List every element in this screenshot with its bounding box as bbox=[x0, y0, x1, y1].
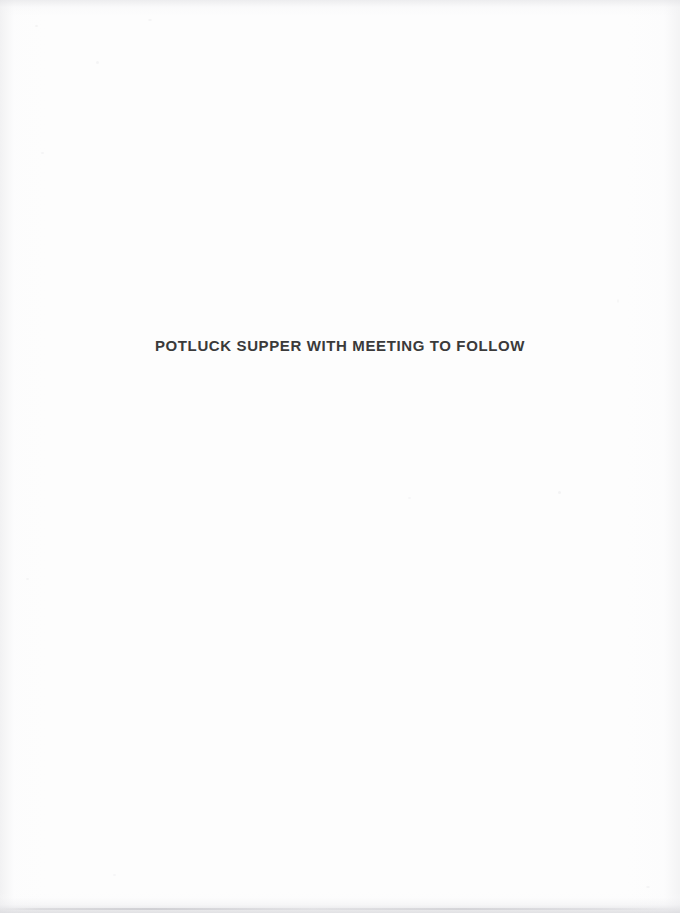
page-title: POTLUCK SUPPER WITH MEETING TO FOLLOW bbox=[155, 336, 525, 356]
paper-background bbox=[0, 0, 680, 913]
scanned-page: POTLUCK SUPPER WITH MEETING TO FOLLOW bbox=[0, 0, 680, 913]
headline-container: POTLUCK SUPPER WITH MEETING TO FOLLOW bbox=[0, 336, 680, 356]
